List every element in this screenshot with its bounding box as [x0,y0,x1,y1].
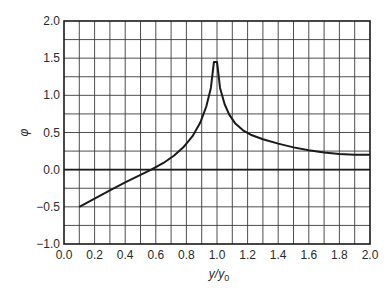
x-tick-label: 0.2 [86,248,103,262]
series-line-phi [79,62,370,207]
y-tick-label: 1.0 [43,88,60,102]
y-tick-label: 0.0 [43,163,60,177]
x-tick-label: 1.2 [239,248,256,262]
y-tick-label: 1.5 [43,51,60,65]
chart: 0.00.20.40.60.81.01.21.41.61.82.0 −1.0−0… [0,0,391,292]
grid-lines [64,21,370,244]
y-axis-label: φ [17,128,31,136]
x-tick-label: 1.8 [331,248,348,262]
x-axis-label-base: y/y [208,267,225,281]
x-tick-label: 1.0 [209,248,226,262]
x-tick-label: 0.4 [117,248,134,262]
x-tick-label: 1.4 [270,248,287,262]
x-tick-label: 2.0 [362,248,379,262]
y-tick-labels: −1.0−0.50.00.51.01.52.0 [36,14,60,251]
x-tick-label: 0.6 [147,248,164,262]
y-tick-label: 0.5 [43,126,60,140]
x-axis-label: y/y0 [208,267,229,283]
x-tick-label: 1.6 [300,248,317,262]
x-tick-labels: 0.00.20.40.60.81.01.21.41.61.82.0 [56,248,379,262]
y-tick-label: −1.0 [36,237,60,251]
x-tick-label: 0.8 [178,248,195,262]
y-tick-label: −0.5 [36,200,60,214]
x-axis-label-subscript: 0 [224,273,229,283]
y-tick-label: 2.0 [43,14,60,28]
